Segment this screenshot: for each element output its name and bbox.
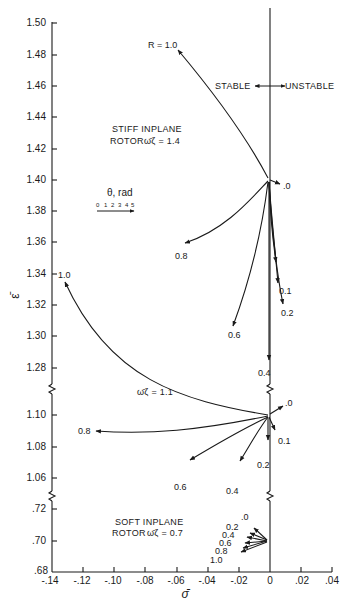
x-axis [52,567,332,572]
svg-text:.0: .0 [283,181,291,191]
svg-text:1.38: 1.38 [27,205,47,216]
svg-text:1: 1 [104,202,108,208]
svg-text:0.6: 0.6 [228,330,241,340]
svg-text:1.50: 1.50 [27,17,47,28]
svg-text:0.1: 0.1 [278,436,291,446]
svg-text:-.10: -.10 [104,575,122,586]
x-tick-labels: -.14 -.12 -.10 -.08 -.06 -.04 -.02 0 .02… [41,575,339,586]
svg-text:ε̄: ε̄ [8,291,22,298]
svg-text:2: 2 [111,202,115,208]
svg-text:0: 0 [267,575,273,586]
svg-text:.04: .04 [325,575,339,586]
svg-text:1.32: 1.32 [27,299,47,310]
svg-text:UNSTABLE: UNSTABLE [285,81,334,91]
svg-text:0.4: 0.4 [226,486,239,496]
svg-text:0.8: 0.8 [175,251,188,261]
svg-text:1.46: 1.46 [27,80,47,91]
svg-text:ω̄ζ = 0.7: ω̄ζ = 0.7 [147,528,183,538]
svg-text:1.0: 1.0 [210,555,223,565]
svg-text:.0: .0 [241,512,249,522]
svg-text:R = 1.0: R = 1.0 [148,40,177,50]
svg-text:θ, rad: θ, rad [107,187,133,198]
svg-text:1.0: 1.0 [58,270,71,280]
svg-text:ω̄ζ = 1.4: ω̄ζ = 1.4 [144,136,180,146]
svg-text:1.42: 1.42 [27,143,47,154]
x-axis-title: σ̄ [181,587,190,601]
svg-text:0.1: 0.1 [279,286,292,296]
stiff-rotor-label: STIFF INPLANE ROTOR ω̄ζ = 1.4 [110,124,182,146]
soft-rotor-curve-labels: .0 0.2 0.4 0.6 0.8 1.0 [210,512,249,565]
svg-text:STIFF INPLANE: STIFF INPLANE [112,124,182,134]
svg-text:3: 3 [118,202,122,208]
svg-text:5: 5 [131,202,135,208]
svg-text:.70: .70 [32,535,46,546]
mid-rotor-omega-label: ω̄ζ = 1.1 [137,387,173,397]
svg-text:0.4: 0.4 [258,368,271,378]
svg-text:-.12: -.12 [73,575,91,586]
svg-text:ROTOR: ROTOR [110,136,144,146]
svg-text:1.48: 1.48 [27,49,47,60]
svg-text:-.04: -.04 [198,575,216,586]
svg-text:SOFT INPLANE: SOFT INPLANE [115,517,183,527]
svg-text:1.34: 1.34 [27,268,47,279]
svg-text:-.06: -.06 [167,575,185,586]
svg-text:STABLE: STABLE [215,81,251,91]
y-axis-title: ε̄ [8,291,22,298]
soft-rotor-curves [241,528,267,552]
svg-text:0.6: 0.6 [174,482,187,492]
soft-rotor-label: SOFT INPLANE ROTOR ω̄ζ = 0.7 [112,517,183,538]
stability-annotation: STABLE UNSTABLE [215,81,334,91]
svg-text:ω̄ζ = 1.1: ω̄ζ = 1.1 [137,387,173,397]
stability-boundary-line [267,8,273,572]
svg-text:1.36: 1.36 [27,236,47,247]
svg-text:1.28: 1.28 [27,362,47,373]
mid-rotor-curve-labels: 1.0 0.8 0.6 0.4 0.2 0.1 .0 [58,270,293,496]
svg-text:ROTOR: ROTOR [112,528,146,538]
theta-scale-legend: θ, rad 0 1 2 3 4 5 [96,187,135,211]
svg-text:1.30: 1.30 [27,330,47,341]
svg-text:.0: .0 [285,398,293,408]
svg-text:1.40: 1.40 [27,174,47,185]
svg-text:0.2: 0.2 [257,460,270,470]
svg-text:1.44: 1.44 [27,111,47,122]
svg-text:1.08: 1.08 [27,441,47,452]
svg-text:1.10: 1.10 [27,409,47,420]
svg-text:.02: .02 [295,575,309,586]
svg-text:1.06: 1.06 [27,472,47,483]
svg-text:-.14: -.14 [41,575,59,586]
y-tick-labels: 1.50 1.48 1.46 1.44 1.42 1.40 1.38 1.36 … [27,17,49,576]
svg-text:0.8: 0.8 [78,426,91,436]
svg-text:.72: .72 [32,503,46,514]
stiff-rotor-curves [178,50,283,360]
mid-rotor-curves [65,282,283,461]
svg-text:0.2: 0.2 [281,308,294,318]
svg-text:-.08: -.08 [136,575,154,586]
svg-text:σ̄: σ̄ [181,587,190,601]
chart: 1.50 1.48 1.46 1.44 1.42 1.40 1.38 1.36 … [0,0,350,609]
y-axis [49,22,57,572]
svg-text:0: 0 [96,202,100,208]
svg-text:-.02: -.02 [230,575,248,586]
svg-text:4: 4 [125,202,129,208]
